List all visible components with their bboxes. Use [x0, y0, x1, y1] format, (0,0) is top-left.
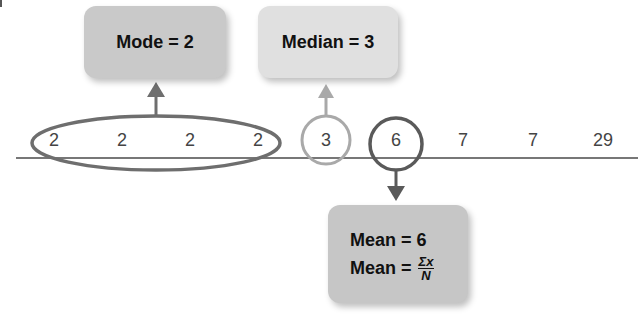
median-box: Median = 3 [258, 6, 398, 78]
value-6: 6 [381, 130, 411, 151]
mode-arrow-head [147, 82, 165, 97]
mean-arrow-head [387, 186, 405, 201]
median-arrow-head [318, 84, 334, 98]
mean-fraction: Σx N [418, 255, 435, 282]
value-8: 7 [518, 130, 548, 151]
value-2: 2 [107, 130, 137, 151]
median-label: Median = 3 [282, 32, 375, 53]
fraction-denominator: N [421, 269, 430, 282]
mean-box: Mean = 6 Mean = Σx N [328, 205, 468, 303]
value-9: 29 [588, 130, 618, 151]
value-1: 2 [39, 130, 69, 151]
mode-box: Mode = 2 [84, 6, 226, 78]
mean-formula-line: Mean = Σx N [350, 254, 434, 282]
value-7: 7 [448, 130, 478, 151]
value-3: 2 [175, 130, 205, 151]
value-4: 2 [243, 130, 273, 151]
fraction-numerator: Σx [418, 255, 435, 269]
mean-value-line: Mean = 6 [350, 226, 427, 254]
value-5: 3 [311, 130, 341, 151]
mean-formula-prefix: Mean = [350, 254, 412, 282]
mode-label: Mode = 2 [116, 32, 194, 53]
